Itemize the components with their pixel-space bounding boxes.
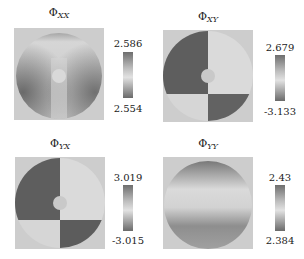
panel-title-xx: ΦXX [14,6,104,20]
title-symbol: Φ [198,137,207,150]
panel-title-xy: ΦXY [163,10,253,24]
heatmap-yy [163,157,253,249]
colorbar-yy [275,185,285,231]
title-symbol: Φ [49,6,58,19]
title-subscript: XY [207,15,218,24]
colorbar-yx [123,185,133,231]
heatmap-yx [15,157,105,249]
panel-title-yy: ΦYY [163,137,253,151]
title-subscript: YX [59,142,70,151]
colorbar-min-yx: -3.015 [106,235,150,246]
colorbar-min-xy: -3.133 [258,106,302,117]
colorbar-max-xx: 2.586 [106,38,150,49]
heatmap-xx [14,28,104,120]
title-subscript: YY [207,142,218,151]
colorbar-max-yy: 2.43 [258,172,302,183]
heatmap-xy [163,30,253,122]
title-subscript: XX [58,11,69,20]
colorbar-xy [275,55,285,101]
colorbar-max-xy: 2.679 [258,42,302,53]
colorbar-max-yx: 3.019 [106,172,150,183]
title-symbol: Φ [50,137,59,150]
panel-title-yx: ΦYX [15,137,105,151]
colorbar-xx [123,52,133,98]
title-symbol: Φ [198,10,207,23]
colorbar-min-yy: 2.384 [258,235,302,246]
colorbar-min-xx: 2.554 [106,103,150,114]
